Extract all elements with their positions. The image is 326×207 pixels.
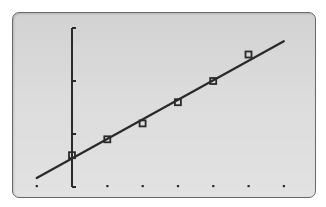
x-tick-dot [212,185,214,187]
x-tick-dot [142,185,144,187]
data-points [69,52,252,159]
data-point [246,52,252,58]
data-point [140,120,146,126]
x-tick-dot [36,185,38,187]
x-tick-dot [106,185,108,187]
y-axis [72,28,76,187]
scatter-plot [0,0,326,207]
x-tick-dot [177,185,179,187]
x-tick-dot [248,185,250,187]
x-tick-dot [283,185,285,187]
